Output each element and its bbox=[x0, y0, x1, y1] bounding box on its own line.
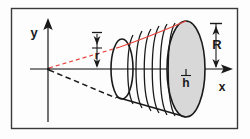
height-label: h bbox=[182, 76, 189, 90]
x-axis-label: x bbox=[219, 80, 226, 94]
y-axis-label: y bbox=[30, 25, 38, 40]
cone-figure: y x r R h bbox=[0, 0, 250, 139]
cone-apex-point bbox=[47, 68, 50, 71]
cone-diagram-svg: y x r R h bbox=[0, 0, 250, 139]
small-radius-label: r bbox=[95, 49, 100, 61]
large-radius-label: R bbox=[212, 37, 222, 52]
